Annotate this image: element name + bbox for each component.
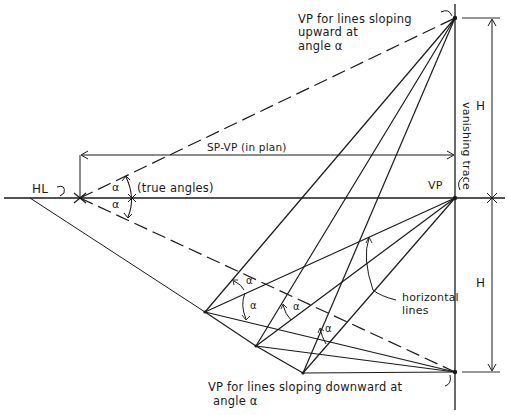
alpha-point-a-lower: α	[250, 300, 257, 312]
hl-label: HL	[32, 183, 48, 195]
alpha-point-b: α	[293, 301, 300, 313]
vp-downward-label-line1: VP for lines sloping downward at	[208, 381, 402, 393]
vanishing-trace-label: vanishing trace	[460, 102, 472, 190]
perspective-diagram	[0, 0, 508, 415]
vp-downward-label-line2: angle α	[213, 395, 258, 407]
vp-label: VP	[428, 180, 443, 192]
alpha-point-a-upper: α	[246, 275, 253, 287]
vp-upward-label-line2: upward at	[298, 26, 358, 38]
alpha-lower-label: α	[112, 199, 119, 211]
vp-upward-label-line1: VP for lines sloping	[298, 13, 412, 25]
h-upper-label: H	[476, 100, 485, 112]
alpha-point-c: α	[325, 323, 332, 335]
h-lower-label: H	[476, 277, 485, 289]
true-angles-label: (true angles)	[137, 182, 214, 194]
horizontal-lines-label-line1: horizontal	[402, 292, 459, 304]
alpha-upper-label: α	[112, 182, 119, 194]
sp-vp-label: SP-VP (in plan)	[207, 141, 287, 153]
horizontal-lines-label-line2: lines	[402, 305, 429, 317]
vp-upward-label-line3: angle α	[298, 40, 343, 52]
upward-angle-dashed-line	[80, 18, 455, 198]
